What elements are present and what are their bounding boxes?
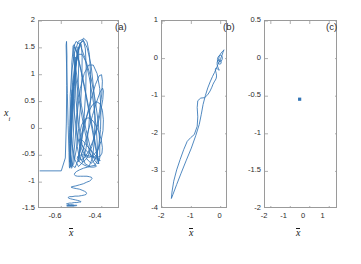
panel-a-plot: [39, 21, 119, 208]
panel-b-ytick-3: -2: [138, 129, 158, 137]
panel-a-ytick-4: 0: [14, 123, 35, 131]
panel-b-ytick-1: 0: [138, 54, 158, 62]
panel-c-xtick-1: -1: [274, 212, 294, 220]
panel-a-ytick-0: 2: [14, 16, 35, 24]
panel-c-ytick-5: -2: [240, 204, 261, 212]
panel-b: 1 0 -1 -2 -3 -4 -2 -1 0 x (b): [130, 0, 240, 264]
panel-a-ytick-2: 1: [14, 70, 35, 78]
panel-a-xlabel: x: [69, 227, 73, 238]
panel-b-xlabel-text: x: [189, 227, 193, 238]
panel-a-ytick-3: 0.5: [14, 97, 35, 105]
panel-b-ytick-0: 1: [138, 16, 158, 24]
panel-a-ytick-5: -0.5: [14, 150, 35, 158]
panel-c: 0.5 0 -0.5 -1 -1.5 -2 -2 -1 0 1 x (c): [240, 0, 361, 264]
panel-a-ytick-7: -1.5: [14, 204, 35, 212]
panel-b-ytick-5: -4: [138, 204, 158, 212]
panel-b-xlabel: x: [189, 227, 193, 238]
panel-c-ytick-0: 0.5: [240, 16, 261, 24]
panel-c-ytick-3: -1: [240, 129, 261, 137]
panel-b-ytick-4: -3: [138, 166, 158, 174]
panel-c-tag: (c): [326, 22, 337, 32]
panel-a-axes: [38, 20, 119, 208]
figure-container: 2 1.5 1 0.5 0 -0.5 -1 -1.5 -0.6 -0.4 x x…: [0, 0, 361, 264]
panel-a: 2 1.5 1 0.5 0 -0.5 -1 -1.5 -0.6 -0.4 x x…: [0, 0, 130, 264]
panel-b-tag: (b): [223, 22, 235, 32]
panel-c-ytick-1: 0: [240, 54, 261, 62]
panel-a-tag: (a): [115, 22, 127, 32]
panel-c-ytick-4: -1.5: [240, 166, 261, 174]
panel-b-xtick-1: -1: [179, 212, 201, 220]
panel-b-xtick-0: -2: [150, 212, 172, 220]
panel-a-ytick-6: -1: [14, 177, 35, 185]
panel-b-axes: [161, 20, 227, 208]
panel-c-xlabel-text: x: [296, 227, 300, 238]
panel-a-ylabel: xi: [4, 108, 10, 121]
panel-c-ytick-2: -0.5: [240, 91, 261, 99]
panel-a-xtick-1: -0.4: [84, 212, 106, 220]
panel-b-xtick-2: 0: [209, 212, 231, 220]
panel-a-ylabel-sub: i: [8, 115, 10, 122]
panel-c-xtick-2: 0: [293, 212, 313, 220]
panel-b-ytick-2: -1: [138, 91, 158, 99]
panel-b-plot: [162, 21, 227, 208]
panel-c-xtick-3: 1: [313, 212, 333, 220]
panel-c-plot: [265, 21, 337, 208]
panel-a-ytick-1: 1.5: [14, 43, 35, 51]
panel-a-xlabel-text: x: [69, 227, 73, 238]
panel-c-axes: [264, 20, 337, 208]
panel-a-xtick-0: -0.6: [44, 212, 66, 220]
panel-c-xlabel: x: [296, 227, 300, 238]
panel-c-xtick-0: -2: [254, 212, 274, 220]
